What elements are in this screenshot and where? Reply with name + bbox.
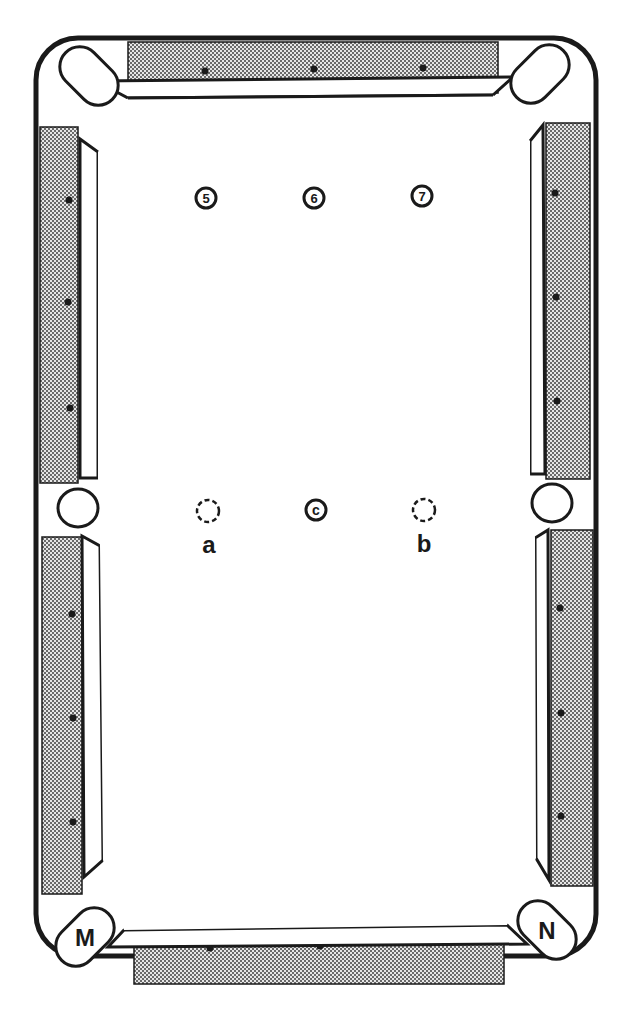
diamond-icon bbox=[67, 405, 74, 412]
diamond-icon bbox=[66, 197, 73, 204]
cue-ball-c: c bbox=[306, 500, 326, 520]
pool-table-diagram: M N 5 6 7 c a b bbox=[0, 0, 623, 1016]
diamond-icon bbox=[70, 715, 77, 722]
pocket-side-right bbox=[532, 484, 572, 522]
left-upper-cushion bbox=[80, 139, 98, 478]
diamond-icon bbox=[69, 611, 76, 618]
ball-label-7: 7 bbox=[418, 189, 425, 204]
diamond-icon bbox=[552, 190, 559, 197]
ghost-label-b: b bbox=[417, 530, 432, 557]
diamond-icon bbox=[553, 294, 560, 301]
ball-6: 6 bbox=[304, 188, 324, 208]
diamond-icon bbox=[420, 65, 427, 72]
diamond-icon bbox=[202, 68, 209, 75]
pocket-label-m: M bbox=[75, 924, 95, 951]
diamond-icon bbox=[558, 813, 565, 820]
ghost-label-a: a bbox=[202, 531, 216, 558]
pocket-label-n: N bbox=[538, 917, 555, 944]
diamond-icon bbox=[311, 66, 318, 73]
right-lower-cushion bbox=[535, 530, 549, 880]
right-upper-rail bbox=[546, 123, 590, 479]
ball-label-c: c bbox=[312, 502, 320, 518]
diamond-icon bbox=[554, 398, 561, 405]
ball-7: 7 bbox=[412, 186, 432, 206]
left-upper-rail bbox=[40, 127, 78, 483]
diamond-icon bbox=[558, 710, 565, 717]
left-lower-rail bbox=[42, 537, 82, 894]
right-lower-rail bbox=[551, 530, 593, 886]
diamond-icon bbox=[65, 299, 72, 306]
ball-5: 5 bbox=[196, 188, 216, 208]
diamond-icon bbox=[70, 819, 77, 826]
left-lower-cushion bbox=[82, 536, 103, 877]
ball-label-5: 5 bbox=[202, 191, 209, 206]
pool-table-svg: M N 5 6 7 c a b bbox=[0, 0, 623, 1016]
diamond-icon bbox=[557, 605, 564, 612]
pocket-side-left bbox=[58, 489, 98, 527]
right-upper-cushion bbox=[530, 125, 545, 474]
ball-label-6: 6 bbox=[310, 191, 317, 206]
